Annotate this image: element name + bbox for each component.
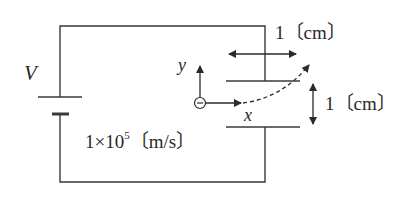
velocity-mantissa: 1×10 — [85, 131, 124, 152]
y-axis-label: y — [178, 56, 186, 74]
velocity-label: 1×105〔m/s〕 — [85, 132, 195, 151]
parallel-plates — [226, 81, 300, 127]
electron-icon — [195, 98, 206, 109]
circuit-wires — [60, 26, 265, 182]
battery-symbol — [38, 97, 82, 114]
velocity-exponent: 5 — [124, 129, 130, 141]
circuit-diagram: V y x 1〔cm〕 1〔cm〕 1×105〔m/s〕 — [0, 0, 413, 202]
plate-gap-label: 1〔cm〕 — [325, 94, 396, 113]
wire-top — [60, 26, 265, 97]
velocity-unit: 〔m/s〕 — [130, 131, 195, 152]
x-axis-label: x — [244, 106, 252, 124]
plate-length-label: 1〔cm〕 — [275, 23, 346, 42]
trajectory-dashed-path — [243, 65, 309, 103]
voltage-label: V — [24, 63, 37, 84]
